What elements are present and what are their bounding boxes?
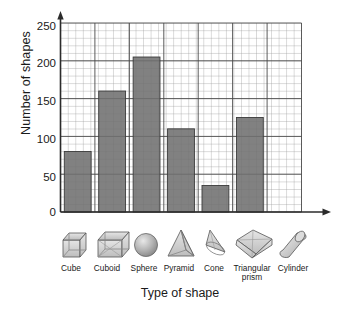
bar-sphere: [133, 57, 160, 212]
cube-icon: [63, 233, 86, 257]
x-tick-label-pyramid: Pyramid: [162, 264, 196, 273]
x-tick-label-triangular-prism-line2: prism: [228, 273, 276, 282]
x-tick-label-cuboid: Cuboid: [91, 264, 123, 273]
x-tick-label-cylinder: Cylinder: [274, 264, 312, 273]
bar-cuboid: [99, 91, 126, 212]
sphere-icon: [135, 234, 158, 257]
x-tick-label-cube: Cube: [58, 264, 84, 273]
x-tick-label-sphere: Sphere: [128, 264, 160, 273]
bar-chart: Number of shapes 250 200 150 100 50 0: [0, 0, 340, 310]
x-axis-arrow: [323, 209, 332, 216]
bar-cube: [64, 152, 91, 212]
pyramid-icon: [168, 230, 194, 256]
cone-icon: [204, 230, 226, 258]
triangular-prism-icon: [236, 230, 272, 258]
bar-triangular-prism: [236, 118, 263, 213]
x-axis-title: Type of shape: [60, 286, 300, 300]
y-axis-arrow: [57, 11, 63, 20]
cuboid-icon: [98, 232, 129, 257]
cylinder-icon: [280, 229, 307, 257]
x-tick-label-cone: Cone: [200, 264, 228, 273]
bar-cone: [202, 186, 229, 212]
bar-pyramid: [168, 129, 195, 212]
